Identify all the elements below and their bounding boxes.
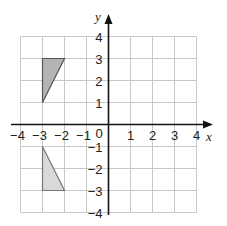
y-axis-label: y xyxy=(93,9,101,24)
x-tick-label: 4 xyxy=(193,128,200,143)
axes xyxy=(11,14,213,215)
x-tick-label: 3 xyxy=(171,128,178,143)
x-tick-label: 2 xyxy=(149,128,156,143)
y-tick-label: −4 xyxy=(88,206,103,221)
origin-label: 0 xyxy=(95,126,102,141)
y-tick-label: 1 xyxy=(95,96,102,111)
x-tick-label: −4 xyxy=(10,128,25,143)
x-tick-label: −2 xyxy=(54,128,69,143)
x-tick-label: −3 xyxy=(32,128,47,143)
x-axis-label: x xyxy=(205,129,212,144)
y-tick-label: −2 xyxy=(88,162,103,177)
x-axis-arrow-icon xyxy=(203,121,213,129)
y-tick-label: 2 xyxy=(95,74,102,89)
y-tick-label: 3 xyxy=(95,52,102,67)
coordinate-grid-diagram: −4−3−2−112341234−1−2−3−4 x y 0 xyxy=(0,0,227,226)
y-tick-label: −1 xyxy=(88,140,103,155)
y-tick-label: −3 xyxy=(88,184,103,199)
x-tick-label: 1 xyxy=(127,128,134,143)
y-axis-arrow-icon xyxy=(105,14,113,24)
y-tick-label: 4 xyxy=(95,30,102,45)
